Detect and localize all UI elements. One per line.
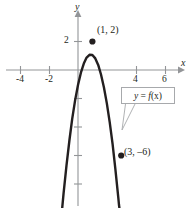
x-tick-label--2: -2 [45,75,53,85]
callout-equals-symbol: = [138,91,148,101]
x-tick-label--4: -4 [16,75,24,85]
graph-figure: -4 -2 4 6 2 x y (1, 2) (3, –6) y = f(x) [0,0,193,208]
vertex-point-marker [89,38,95,44]
parabola-curve [62,55,119,208]
y-axis-label: y [75,2,79,12]
x-tick-label-6: 6 [162,75,167,85]
lower-point-label: (3, –6) [124,147,151,157]
callout-argument: (x) [151,91,162,101]
function-callout-text: y = f(x) [134,91,162,101]
callout-pointer [122,104,135,130]
vertex-point-label: (1, 2) [97,25,119,35]
y-tick-label-2: 2 [64,36,69,46]
x-axis-label: x [181,58,185,68]
function-callout-box: y = f(x) [121,87,175,104]
x-tick-label-4: 4 [133,75,138,85]
